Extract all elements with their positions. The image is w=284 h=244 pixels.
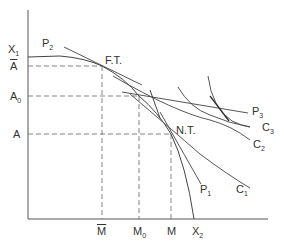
tangent-mark xyxy=(210,96,229,121)
tangent-mark-2 xyxy=(150,90,160,118)
label-a-bar: A xyxy=(10,61,17,72)
label-no-trade: N.T. xyxy=(176,125,196,136)
label-p3: P3 xyxy=(252,106,263,117)
trade-diagram: X1 A A0 A M M0 M X2 P2 P1 P3 C1 C2 C3 F.… xyxy=(0,0,284,244)
label-m: M xyxy=(167,226,176,237)
production-frontier xyxy=(28,56,194,219)
price-line-p1 xyxy=(160,112,201,184)
label-m-bar: M xyxy=(97,226,106,237)
label-m0: M0 xyxy=(133,226,146,237)
indifference-c1 xyxy=(130,94,250,188)
label-a: A xyxy=(13,129,20,140)
label-p1: P1 xyxy=(200,184,211,195)
label-x2: X2 xyxy=(192,226,203,237)
price-line-p2 xyxy=(64,47,142,85)
label-p2: P2 xyxy=(42,38,53,49)
label-x1: X1 xyxy=(8,44,19,55)
label-a0: A0 xyxy=(10,91,21,102)
label-c3: C3 xyxy=(262,122,274,133)
label-c2: C2 xyxy=(253,139,265,150)
price-line-p3 xyxy=(122,92,248,113)
label-c1: C1 xyxy=(236,184,248,195)
guide-lines xyxy=(28,66,171,219)
label-free-trade: F.T. xyxy=(105,55,122,66)
